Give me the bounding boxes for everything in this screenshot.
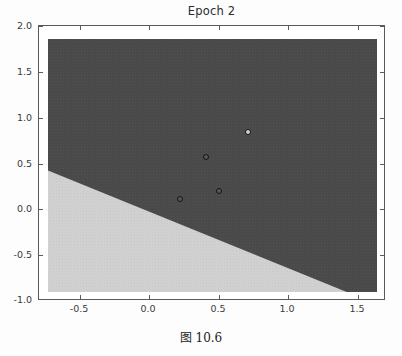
tick-x bbox=[80, 295, 81, 299]
ticklabel-y: 0.0 bbox=[0, 203, 32, 214]
tick-y bbox=[380, 209, 384, 210]
ticklabel-y: -0.5 bbox=[0, 249, 32, 260]
tick-y bbox=[380, 118, 384, 119]
ticklabel-y: 1.5 bbox=[0, 66, 32, 77]
tick-x bbox=[219, 295, 220, 299]
ticklabel-y: 2.0 bbox=[0, 20, 32, 31]
decision-surface-svg bbox=[48, 39, 377, 292]
figure-canvas: Epoch 2 bbox=[0, 0, 402, 356]
ticklabel-y: 0.5 bbox=[0, 158, 32, 169]
tick-y bbox=[39, 164, 43, 165]
tick-x bbox=[149, 26, 150, 30]
tick-x bbox=[358, 295, 359, 299]
ticklabel-y: 1.0 bbox=[0, 112, 32, 123]
raster-grain-overlay bbox=[48, 39, 377, 292]
tick-y bbox=[39, 118, 43, 119]
tick-y bbox=[39, 72, 43, 73]
ticklabel-x: 0.5 bbox=[210, 303, 225, 314]
tick-y bbox=[380, 164, 384, 165]
ticklabel-y: -1.0 bbox=[0, 294, 32, 305]
tick-x bbox=[358, 26, 359, 30]
tick-y bbox=[380, 255, 384, 256]
decision-region-image bbox=[48, 39, 377, 292]
plot-area bbox=[38, 25, 385, 300]
ticklabel-x: 1.0 bbox=[279, 303, 294, 314]
tick-y bbox=[39, 209, 43, 210]
tick-y bbox=[380, 72, 384, 73]
tick-x bbox=[219, 26, 220, 30]
tick-y bbox=[39, 26, 43, 27]
tick-x bbox=[288, 26, 289, 30]
ticklabel-x: -0.5 bbox=[70, 303, 89, 314]
tick-y bbox=[39, 255, 43, 256]
tick-x bbox=[149, 295, 150, 299]
chart-title: Epoch 2 bbox=[38, 4, 385, 18]
tick-y bbox=[380, 26, 384, 27]
ticklabel-x: 1.5 bbox=[349, 303, 364, 314]
tick-x bbox=[80, 26, 81, 30]
figure-caption: 图 10.6 bbox=[0, 328, 402, 345]
ticklabel-x: 0.0 bbox=[140, 303, 155, 314]
tick-x bbox=[288, 295, 289, 299]
